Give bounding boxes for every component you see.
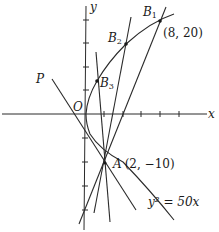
- point-B1-coords: (8, 20): [163, 26, 203, 40]
- point-B2: [124, 42, 128, 46]
- point-B1-label: B1: [142, 5, 157, 20]
- point-A: [104, 162, 107, 165]
- point-B3-label: B3: [99, 76, 114, 91]
- x-axis-label: x: [208, 107, 215, 121]
- point-A-label: A(2, −10): [112, 157, 175, 171]
- point-B1: [158, 19, 162, 23]
- origin-label: O: [73, 100, 83, 114]
- line-A-B1: [79, 7, 166, 224]
- point-B3: [95, 79, 99, 83]
- line-P-tangent: [52, 79, 136, 210]
- point-B2-label: B2: [107, 31, 122, 46]
- y-axis-label: y: [89, 0, 97, 14]
- point-P-label: P: [35, 72, 45, 86]
- parabola-tangent-diagram: y x O P B1 (8, 20) B2 B3 A(2, −10) y² = …: [0, 0, 219, 232]
- labels: y x O P B1 (8, 20) B2 B3 A(2, −10) y² = …: [35, 0, 215, 209]
- curve-equation: y² = 50x: [147, 195, 200, 209]
- parabola-curve: [86, 14, 174, 220]
- line-A-B2: [94, 17, 131, 213]
